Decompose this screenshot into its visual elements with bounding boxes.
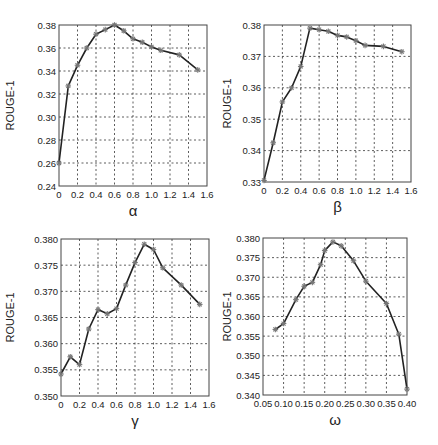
x-tick-label: 0.4	[294, 185, 307, 196]
y-tick-label: 0.340	[236, 390, 260, 401]
y-tick-label: 0.28	[38, 135, 57, 146]
x-tick-label: 0.8	[331, 185, 344, 196]
x-axis-label: γ	[131, 412, 139, 429]
x-tick-label: 0.15	[295, 398, 314, 409]
x-tick-label: 0.25	[336, 398, 355, 409]
x-tick-label: 0.40	[398, 398, 417, 409]
x-tick-label: 0.2	[73, 399, 86, 410]
y-tick-label: 0.355	[34, 364, 58, 375]
y-tick-label: 0.380	[236, 233, 260, 244]
x-tick-label: 1.4	[182, 189, 195, 200]
x-tick-label: 1.6	[200, 189, 213, 200]
chart-beta-svg: 00.20.40.60.81.01.21.41.60.330.340.350.3…	[219, 0, 438, 220]
data-markers	[273, 239, 410, 392]
x-axis-label: α	[129, 202, 138, 219]
x-tick-label: 0.35	[377, 398, 396, 409]
data-line	[61, 244, 200, 374]
x-axis-label: ω	[329, 411, 341, 428]
chart-omega: 0.050.100.150.200.250.300.350.400.3400.3…	[219, 220, 438, 445]
y-tick-label: 0.33	[243, 177, 262, 188]
x-tick-label: 1.0	[349, 185, 362, 196]
x-tick-label: 0.4	[89, 189, 102, 200]
chart-gamma-svg: 00.20.40.60.81.01.21.41.60.3500.3550.360…	[0, 220, 219, 445]
x-tick-label: 0	[56, 189, 61, 200]
x-tick-label: 0.8	[128, 399, 141, 410]
x-tick-label: 0.10	[274, 398, 293, 409]
x-tick-label: 0.6	[110, 399, 123, 410]
y-tick-label: 0.375	[34, 260, 58, 271]
x-tick-label: 1.2	[165, 399, 178, 410]
y-tick-label: 0.355	[236, 331, 260, 342]
x-tick-label: 0.2	[276, 185, 289, 196]
chart-beta: 00.20.40.60.81.01.21.41.60.330.340.350.3…	[219, 0, 438, 220]
x-tick-label: 1.0	[147, 399, 160, 410]
x-tick-label: 1.6	[202, 399, 215, 410]
x-tick-label: 0.4	[91, 399, 104, 410]
x-tick-label: 0.6	[313, 185, 326, 196]
grid	[59, 25, 207, 186]
x-tick-label: 1.4	[184, 399, 197, 410]
data-line	[264, 28, 402, 180]
y-tick-label: 0.380	[34, 234, 58, 245]
x-tick-label: 1.2	[368, 185, 381, 196]
x-tick-label: 1.6	[404, 185, 417, 196]
y-tick-label: 0.350	[236, 350, 260, 361]
y-tick-label: 0.345	[236, 370, 260, 381]
y-tick-label: 0.360	[34, 338, 58, 349]
y-axis-label: ROUGE-1	[221, 78, 233, 128]
y-tick-label: 0.365	[34, 312, 58, 323]
y-axis-label: ROUGE-1	[4, 80, 16, 130]
x-tick-label: 0.30	[357, 398, 376, 409]
x-tick-label: 0.2	[71, 189, 84, 200]
y-tick-label: 0.32	[38, 89, 57, 100]
y-axis-label: ROUGE-1	[4, 292, 16, 342]
y-tick-label: 0.34	[243, 145, 262, 156]
x-tick-label: 0	[261, 185, 266, 196]
y-tick-label: 0.350	[34, 391, 58, 402]
y-tick-label: 0.34	[38, 66, 57, 77]
y-tick-label: 0.370	[34, 286, 58, 297]
x-axis-label: β	[333, 198, 342, 215]
y-tick-label: 0.37	[243, 51, 262, 62]
chart-gamma: 00.20.40.60.81.01.21.41.60.3500.3550.360…	[0, 220, 219, 445]
chart-alpha: 00.20.40.60.81.01.21.41.60.240.260.280.3…	[0, 0, 219, 220]
y-tick-label: 0.38	[243, 20, 262, 31]
y-tick-label: 0.36	[38, 43, 57, 54]
chart-omega-svg: 0.050.100.150.200.250.300.350.400.3400.3…	[219, 220, 438, 445]
y-tick-label: 0.370	[236, 272, 260, 283]
x-tick-label: 1.4	[386, 185, 399, 196]
x-tick-label: 0.8	[126, 189, 139, 200]
y-tick-label: 0.360	[236, 311, 260, 322]
x-tick-label: 1.0	[145, 189, 158, 200]
y-axis-label: ROUGE-1	[221, 291, 233, 341]
x-tick-label: 0.20	[315, 398, 334, 409]
x-tick-label: 1.2	[163, 189, 176, 200]
y-tick-label: 0.36	[243, 82, 262, 93]
x-tick-label: 0.6	[108, 189, 121, 200]
y-tick-label: 0.35	[243, 114, 262, 125]
data-line	[275, 242, 407, 389]
chart-alpha-svg: 00.20.40.60.81.01.21.41.60.240.260.280.3…	[0, 0, 219, 220]
y-tick-label: 0.24	[38, 181, 57, 192]
grid	[263, 238, 407, 395]
y-tick-label: 0.26	[38, 158, 57, 169]
x-tick-label: 0	[58, 399, 63, 410]
y-tick-label: 0.375	[236, 252, 260, 263]
y-tick-label: 0.30	[38, 112, 57, 123]
y-tick-label: 0.365	[236, 291, 260, 302]
y-tick-label: 0.38	[38, 20, 57, 31]
